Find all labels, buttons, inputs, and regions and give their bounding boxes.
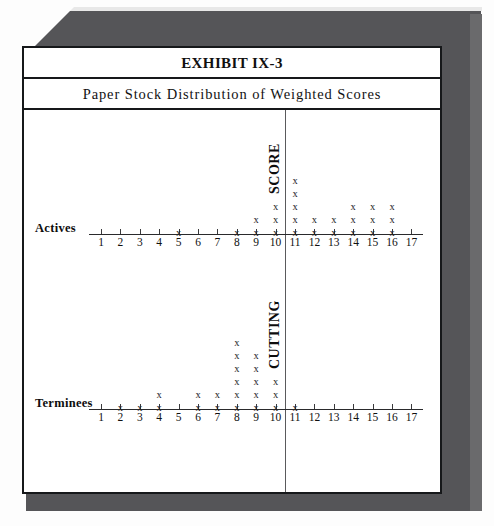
exhibit-title: EXHIBIT IX-3 — [24, 48, 440, 79]
data-point-x: x — [269, 377, 283, 388]
data-point-x: x — [249, 403, 263, 414]
data-point-x: x — [288, 202, 302, 213]
axis-tick — [179, 404, 180, 409]
row-label-actives: Actives — [35, 221, 76, 236]
plot-area: Actives SCORE 12345x678x9xx10xxx11xxxxx1… — [24, 110, 440, 492]
data-point-x: x — [249, 351, 263, 362]
exhibit-subtitle: Paper Stock Distribution of Weighted Sco… — [24, 79, 440, 110]
axis-tick — [140, 229, 141, 234]
data-point-x: x — [288, 228, 302, 239]
axis-tick — [314, 404, 315, 409]
axis-tick — [411, 229, 412, 234]
data-point-x: x — [191, 390, 205, 401]
data-point-x: x — [269, 390, 283, 401]
data-point-x: x — [327, 228, 341, 239]
data-point-x: x — [346, 228, 360, 239]
axis-tick-label: 5 — [169, 411, 189, 423]
data-point-x: x — [366, 215, 380, 226]
data-point-x: x — [230, 403, 244, 414]
data-point-x: x — [366, 202, 380, 213]
axis-tick — [392, 404, 393, 409]
axis-tick — [198, 229, 199, 234]
data-point-x: x — [385, 215, 399, 226]
axis-tick-label: 1 — [91, 411, 111, 423]
axis-tick — [101, 404, 102, 409]
frame-top-highlight — [26, 7, 482, 11]
data-point-x: x — [288, 215, 302, 226]
axis-annotation-cutting: CUTTING — [267, 300, 283, 369]
data-point-x: x — [269, 228, 283, 239]
data-point-x: x — [230, 377, 244, 388]
axis-tick-label: 14 — [343, 411, 363, 423]
data-point-x: x — [346, 215, 360, 226]
data-point-x: x — [249, 228, 263, 239]
data-point-x: x — [288, 176, 302, 187]
axis-annotation-score: SCORE — [267, 143, 283, 194]
data-point-x: x — [385, 202, 399, 213]
data-point-x: x — [307, 215, 321, 226]
axis-tick-label: 15 — [363, 411, 383, 423]
data-point-x: x — [230, 390, 244, 401]
data-point-x: x — [269, 403, 283, 414]
data-point-x: x — [249, 377, 263, 388]
axis-tick-label: 7 — [207, 236, 227, 248]
axis-tick — [120, 229, 121, 234]
data-point-x: x — [230, 364, 244, 375]
axis-tick — [334, 404, 335, 409]
data-point-x: x — [249, 215, 263, 226]
data-point-x: x — [230, 338, 244, 349]
data-point-x: x — [385, 228, 399, 239]
data-point-x: x — [366, 228, 380, 239]
axis-tick-label: 16 — [382, 411, 402, 423]
axis-tick — [411, 404, 412, 409]
data-point-x: x — [269, 202, 283, 213]
axis-tick-label: 3 — [130, 236, 150, 248]
axis-tick — [373, 404, 374, 409]
data-point-x: x — [327, 215, 341, 226]
cutting-score-line — [285, 110, 286, 492]
data-point-x: x — [307, 228, 321, 239]
data-point-x: x — [249, 390, 263, 401]
data-point-x: x — [288, 189, 302, 200]
axis-tick-label: 2 — [110, 236, 130, 248]
data-point-x: x — [133, 403, 147, 414]
data-point-x: x — [269, 215, 283, 226]
axis-tick-label: 17 — [401, 236, 421, 248]
axis-tick-label: 6 — [188, 236, 208, 248]
axis-tick-label: 17 — [401, 411, 421, 423]
data-point-x: x — [172, 228, 186, 239]
data-point-x: x — [288, 403, 302, 414]
data-point-x: x — [249, 364, 263, 375]
axis-tick — [101, 229, 102, 234]
data-point-x: x — [210, 390, 224, 401]
data-point-x: x — [230, 351, 244, 362]
data-point-x: x — [230, 228, 244, 239]
axis-tick-label: 4 — [149, 236, 169, 248]
data-point-x: x — [210, 403, 224, 414]
axis-tick — [217, 229, 218, 234]
axis-tick-label: 1 — [91, 236, 111, 248]
data-point-x: x — [346, 202, 360, 213]
exhibit-scene: EXHIBIT IX-3 Paper Stock Distribution of… — [0, 0, 494, 526]
axis-tick — [159, 229, 160, 234]
axis-tick-label: 12 — [304, 411, 324, 423]
axis-tick — [353, 404, 354, 409]
data-point-x: x — [152, 403, 166, 414]
row-label-terminees: Terminees — [35, 396, 93, 411]
data-point-x: x — [191, 403, 205, 414]
data-point-x: x — [113, 403, 127, 414]
exhibit-panel: EXHIBIT IX-3 Paper Stock Distribution of… — [22, 46, 442, 494]
frame-right-shadow — [470, 14, 482, 511]
axis-tick-label: 13 — [324, 411, 344, 423]
data-point-x: x — [152, 390, 166, 401]
